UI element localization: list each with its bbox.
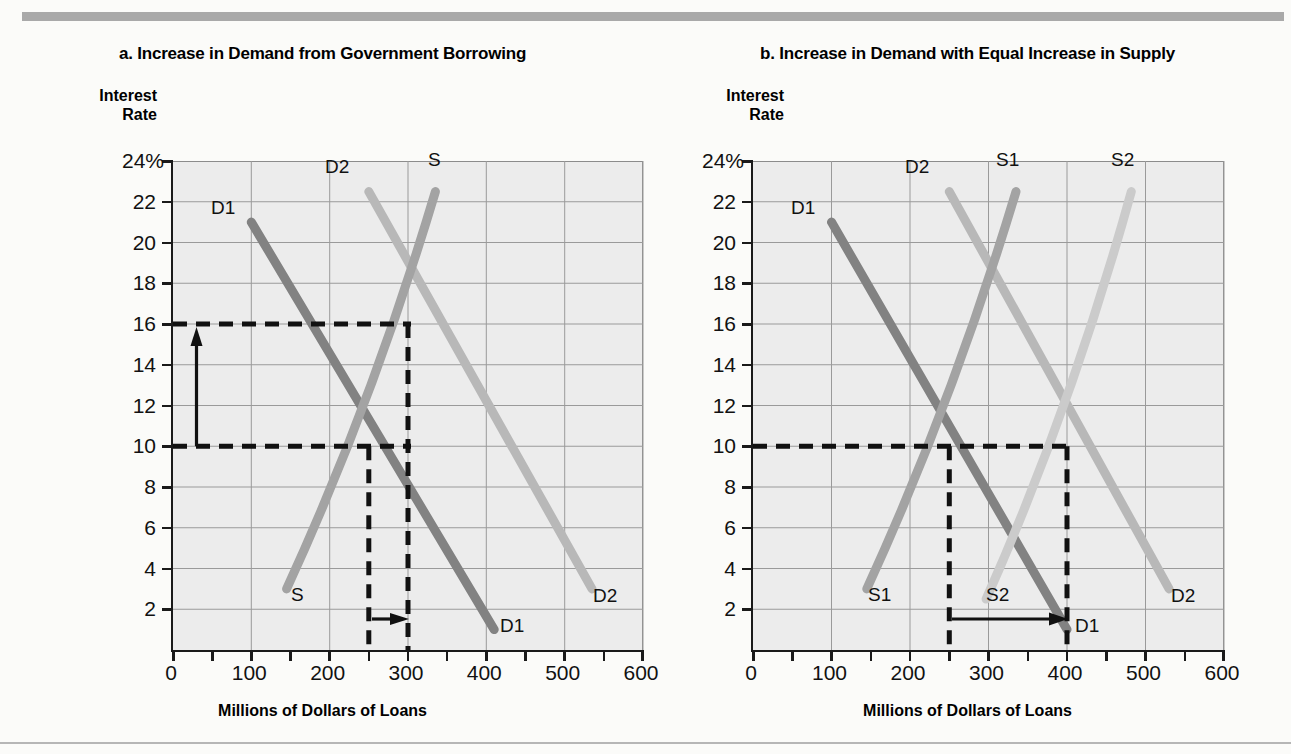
panel-a-ylabel-8: 8 bbox=[78, 476, 156, 497]
panel-b-ytick-6 bbox=[742, 527, 753, 530]
panel-b-gridlines bbox=[753, 161, 1224, 650]
panel-a-label-d2-top: D2 bbox=[325, 157, 349, 176]
panel-a-ylabel-20: 20 bbox=[78, 232, 156, 253]
panel-a: a. Increase in Demand from Government Bo… bbox=[0, 0, 645, 754]
panel-b-xlabel-400: 400 bbox=[1035, 662, 1095, 683]
panel-b-xtick-50 bbox=[791, 650, 794, 661]
panel-a-xtick-450 bbox=[524, 650, 527, 661]
panel-a-xlabel-300: 300 bbox=[376, 662, 436, 683]
panel-a-curve-s bbox=[287, 192, 436, 589]
panel-b-label-d2-top: D2 bbox=[905, 157, 929, 176]
panel-b-xlabel-500: 500 bbox=[1114, 662, 1174, 683]
panel-a-label-d2-bottom: D2 bbox=[593, 586, 617, 605]
panel-b-xlabel-0: 0 bbox=[721, 662, 781, 683]
panel-b-x-axis-title: Millions of Dollars of Loans bbox=[645, 702, 1290, 720]
panel-a-curve-d2 bbox=[369, 192, 592, 589]
panel-b-ytick-18 bbox=[742, 282, 753, 285]
panel-a-xlabel-500: 500 bbox=[533, 662, 593, 683]
panel-a-ytick-10 bbox=[162, 445, 173, 448]
panel-a-xtick-400 bbox=[485, 650, 488, 661]
panel-a-ylabel-4: 4 bbox=[78, 558, 156, 579]
panel-b: b. Increase in Demand with Equal Increas… bbox=[645, 0, 1290, 754]
y-axis-title-line2: Rate bbox=[689, 105, 784, 124]
panel-a-xlabel-100: 100 bbox=[219, 662, 279, 683]
panel-a-label-d1-bottom: D1 bbox=[500, 616, 524, 635]
panel-a-x-axis-title: Millions of Dollars of Loans bbox=[0, 702, 645, 720]
panel-a-xlabel-0: 0 bbox=[141, 662, 201, 683]
panel-a-title: a. Increase in Demand from Government Bo… bbox=[0, 44, 645, 64]
panel-b-ylabel-12: 12 bbox=[658, 395, 736, 416]
panel-a-xtick-50 bbox=[211, 650, 214, 661]
y-axis-title-line2: Rate bbox=[62, 105, 157, 124]
panel-a-xtick-250 bbox=[368, 650, 371, 661]
panel-a-xtick-600 bbox=[641, 650, 644, 661]
panel-b-curve-d2 bbox=[949, 192, 1169, 589]
panel-a-ylabel-6: 6 bbox=[78, 517, 156, 538]
panel-b-xtick-200 bbox=[909, 650, 912, 661]
panel-b-arrow-quantity-increase bbox=[952, 613, 1068, 626]
panel-b-ylabel-16: 16 bbox=[658, 313, 736, 334]
panel-a-plot-canvas bbox=[173, 161, 643, 650]
panel-b-xlabel-300: 300 bbox=[957, 662, 1017, 683]
panel-a-label-d1-top: D1 bbox=[211, 198, 235, 217]
panel-a-ytick-4 bbox=[162, 568, 173, 571]
panel-b-xlabel-200: 200 bbox=[878, 662, 938, 683]
panel-b-ylabel-20: 20 bbox=[658, 232, 736, 253]
panel-b-plot-area: D1 D2 S1 S2 S1 S2 D1 D2 bbox=[751, 161, 1224, 652]
panel-a-ytick-6 bbox=[162, 527, 173, 530]
panel-a-ytick-18 bbox=[162, 282, 173, 285]
panel-a-ytick-2 bbox=[162, 608, 173, 611]
panel-b-plot-canvas bbox=[753, 161, 1224, 650]
panel-b-ytick-14 bbox=[742, 364, 753, 367]
panel-b-ytick-16 bbox=[742, 323, 753, 326]
panel-b-ylabel-10: 10 bbox=[658, 435, 736, 456]
panel-a-ytick-20 bbox=[162, 242, 173, 245]
panel-a-xlabel-200: 200 bbox=[298, 662, 358, 683]
panel-b-ylabel-24: 24% bbox=[658, 150, 744, 171]
panel-a-arrow-quantity-increase bbox=[372, 613, 409, 625]
panel-a-ylabel-2: 2 bbox=[78, 598, 156, 619]
panel-b-ylabel-8: 8 bbox=[658, 476, 736, 497]
panel-a-ytick-12 bbox=[162, 405, 173, 408]
panel-a-ylabel-10: 10 bbox=[78, 435, 156, 456]
panel-a-arrow-rate-increase bbox=[191, 327, 203, 446]
panel-b-label-s2-top: S2 bbox=[1111, 150, 1134, 169]
panel-b-xtick-450 bbox=[1105, 650, 1108, 661]
panel-b-ytick-8 bbox=[742, 486, 753, 489]
figure-root: a. Increase in Demand from Government Bo… bbox=[0, 0, 1291, 754]
panel-b-xtick-100 bbox=[830, 650, 833, 661]
panel-a-ylabel-18: 18 bbox=[78, 272, 156, 293]
y-axis-title-line1: Interest bbox=[62, 86, 157, 105]
panel-a-xtick-150 bbox=[289, 650, 292, 661]
panel-b-ytick-4 bbox=[742, 568, 753, 571]
panel-a-ytick-8 bbox=[162, 486, 173, 489]
panel-b-ylabel-22: 22 bbox=[658, 191, 736, 212]
panel-b-label-d1-top: D1 bbox=[791, 198, 815, 217]
panel-b-xtick-350 bbox=[1027, 650, 1030, 661]
panel-a-ytick-14 bbox=[162, 364, 173, 367]
panel-b-xtick-600 bbox=[1222, 650, 1225, 661]
panel-b-ylabel-18: 18 bbox=[658, 272, 736, 293]
panel-b-ytick-20 bbox=[742, 242, 753, 245]
panel-a-ylabel-12: 12 bbox=[78, 395, 156, 416]
panel-a-plot-area: D1 D2 S S D1 D2 bbox=[171, 161, 643, 652]
panel-b-ytick-12 bbox=[742, 405, 753, 408]
panel-a-xlabel-400: 400 bbox=[454, 662, 514, 683]
panel-b-xtick-250 bbox=[948, 650, 951, 661]
panel-a-ytick-22 bbox=[162, 201, 173, 204]
panel-b-ylabel-14: 14 bbox=[658, 354, 736, 375]
panel-b-ytick-22 bbox=[742, 201, 753, 204]
panel-a-xtick-200 bbox=[328, 650, 331, 661]
panel-a-ylabel-22: 22 bbox=[78, 191, 156, 212]
panel-b-xtick-300 bbox=[987, 650, 990, 661]
panel-b-label-d2-bottom: D2 bbox=[1171, 586, 1195, 605]
panel-a-y-axis-title: Interest Rate bbox=[62, 86, 157, 124]
panel-a-xtick-100 bbox=[250, 650, 253, 661]
panel-a-ylabel-16: 16 bbox=[78, 313, 156, 334]
panel-a-ylabel-14: 14 bbox=[78, 354, 156, 375]
panel-b-xtick-0 bbox=[752, 650, 755, 661]
panel-a-xtick-550 bbox=[603, 650, 606, 661]
panel-b-xlabel-100: 100 bbox=[800, 662, 860, 683]
panel-a-xtick-0 bbox=[172, 650, 175, 661]
panel-b-ytick-2 bbox=[742, 608, 753, 611]
